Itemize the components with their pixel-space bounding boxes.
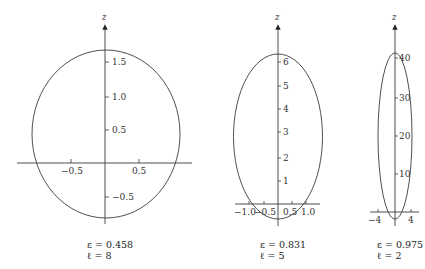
ellipse-diagram: z 1.5 1.0 0.5 −0.5 −0.5 0.5 ε = 0.458 ℓ …	[0, 0, 425, 269]
z-tick: 3	[283, 127, 289, 137]
z-tick: 2	[283, 153, 289, 163]
z-tick: 5	[283, 81, 289, 91]
z-tick: −0.5	[112, 192, 134, 202]
z-tick: 20	[399, 131, 411, 141]
x-tick: −4	[368, 215, 382, 225]
z-tick: 6	[283, 57, 289, 67]
z-tick: 1.0	[112, 92, 127, 102]
z-tick: 40	[399, 53, 411, 63]
z-tick: 4	[283, 104, 289, 114]
x-tick: 1.0	[301, 207, 316, 217]
ell-label: ℓ = 8	[87, 250, 112, 261]
ell-label: ℓ = 5	[260, 250, 285, 261]
x-tick: −0.5	[254, 207, 276, 217]
epsilon-label: ε = 0.975	[377, 239, 423, 250]
x-tick: −0.5	[61, 166, 83, 176]
z-tick: 1.5	[112, 57, 127, 67]
plot-epsilon-0458: z 1.5 1.0 0.5 −0.5 −0.5 0.5 ε = 0.458 ℓ …	[17, 12, 192, 261]
z-axis-label: z	[274, 12, 280, 22]
plot-epsilon-0831: z 6 5 4 3 2 1 −1.0 −0.5 0.5 1.0 ε = 0.83…	[234, 12, 323, 261]
z-axis-label: z	[391, 12, 397, 22]
epsilon-label: ε = 0.458	[87, 239, 133, 250]
x-tick: 4	[408, 215, 414, 225]
z-axis-label: z	[101, 12, 107, 22]
ell-label: ℓ = 2	[377, 250, 402, 261]
orbit-ellipse	[32, 50, 180, 218]
x-tick: −1.0	[234, 207, 256, 217]
z-tick: 1	[283, 176, 289, 186]
epsilon-label: ε = 0.831	[260, 239, 306, 250]
x-tick: 0.5	[283, 207, 298, 217]
plot-epsilon-0975: z 40 30 20 10 −4 4 ε = 0.975 ℓ = 2	[368, 12, 423, 261]
x-tick: 0.5	[132, 166, 147, 176]
z-tick: 30	[399, 93, 411, 103]
z-tick: 0.5	[112, 125, 127, 135]
z-tick: 10	[399, 169, 411, 179]
